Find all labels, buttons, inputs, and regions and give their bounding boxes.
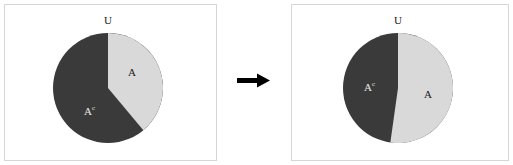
pie-before-label-universe: U [104, 15, 112, 26]
pie-before-complement-superscript: c [92, 104, 95, 112]
pie-after-label-complement: Ac [364, 82, 375, 93]
pie-chart-before [49, 29, 167, 147]
pie-before-label-a: A [128, 67, 136, 78]
right-arrow-icon [237, 72, 271, 90]
pie-after-label-a: A [424, 89, 432, 100]
pie-chart-after [339, 29, 457, 147]
pie-after-slice-a [390, 33, 453, 143]
pie-before-label-complement: Ac [84, 106, 95, 117]
pie-after-svg [339, 29, 457, 147]
pie-after-complement-superscript: c [372, 80, 375, 88]
pie-before-svg [49, 29, 167, 147]
pie-after-complement-base: A [364, 81, 372, 93]
pie-after-label-universe: U [394, 15, 402, 26]
right-arrow-svg [237, 72, 271, 90]
pie-before-complement-base: A [84, 105, 92, 117]
figure-container: U A Ac U A Ac [0, 0, 513, 165]
